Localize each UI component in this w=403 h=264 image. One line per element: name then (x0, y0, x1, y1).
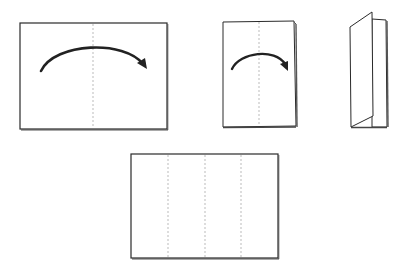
step-2-sheet (223, 21, 297, 128)
step-1-sheet (20, 23, 168, 130)
step-3-folded (350, 12, 388, 128)
step-4-unfolded (131, 154, 279, 259)
folding-diagram (0, 0, 403, 264)
